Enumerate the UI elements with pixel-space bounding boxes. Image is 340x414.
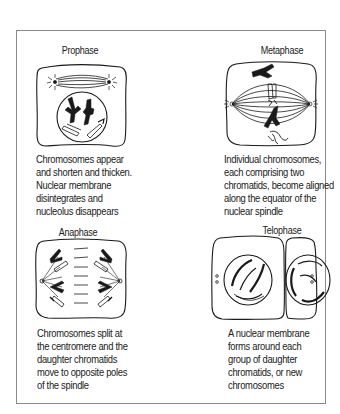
- spindle-fibers: [56, 75, 108, 88]
- centrioles: [216, 275, 314, 284]
- prophase-caption: Chromosomes appear and shorten and thick…: [36, 153, 170, 218]
- equator-fibers: [74, 248, 88, 303]
- metaphase-title: Metaphase: [245, 44, 319, 56]
- nuclear-membrane: [57, 92, 107, 142]
- anaphase-caption: Chromosomes split at the centromere and …: [37, 327, 171, 392]
- telophase-cell-illustration: [208, 234, 320, 322]
- spindle-fibers: [42, 257, 120, 297]
- prophase-cell-illustration: [34, 62, 130, 150]
- chromosomes-right: [94, 249, 112, 307]
- daughter-cell-left: [212, 236, 285, 319]
- chromosomes-left: [50, 249, 68, 307]
- prophase-title: Prophase: [43, 44, 117, 56]
- anaphase-cell-illustration: [32, 237, 130, 321]
- cell-membrane: [36, 239, 127, 318]
- chromosomes-right: [291, 261, 324, 301]
- centriole-right: [107, 74, 117, 90]
- cell-membrane: [37, 65, 127, 146]
- chromosomes: [62, 97, 104, 138]
- telophase-caption: A nuclear membrane forms around each gro…: [228, 327, 340, 392]
- chromosomes-left: [232, 260, 264, 300]
- metaphase-cell-illustration: [222, 58, 320, 150]
- metaphase-caption: Individual chromosomes, each comprising …: [224, 153, 340, 218]
- centriole-left: [47, 74, 57, 90]
- chromosomes: [252, 64, 288, 144]
